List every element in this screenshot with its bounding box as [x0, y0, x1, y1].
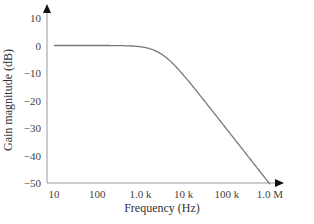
- gain-curve: [54, 46, 270, 185]
- x-tick-labels: 101001.0 k10 k100 k1.0 M: [49, 188, 284, 200]
- x-tick-label: 1.0 M: [257, 188, 284, 200]
- x-tick-label: 100: [89, 188, 106, 200]
- x-axis-arrow-icon: [275, 179, 284, 187]
- x-tick-label: 100 k: [214, 188, 239, 200]
- y-axis-label: Gain magnitude (dB): [1, 49, 15, 151]
- x-axis-label: Frequency (Hz): [124, 201, 200, 215]
- y-tick-label: −30: [24, 122, 42, 134]
- y-tick-labels: 100−10−20−30−40−50: [24, 12, 42, 189]
- x-tick-label: 10: [49, 188, 61, 200]
- x-tick-label: 10 k: [174, 188, 194, 200]
- y-tick-label: −40: [24, 150, 42, 162]
- y-tick-label: 0: [36, 40, 42, 52]
- y-tick-label: 10: [30, 12, 42, 24]
- y-tick-label: −20: [24, 95, 42, 107]
- y-tick-label: −10: [24, 67, 42, 79]
- x-tick-label: 1.0 k: [129, 188, 152, 200]
- y-axis-arrow-icon: [43, 4, 51, 13]
- y-tick-label: −50: [24, 177, 42, 189]
- chart-canvas: 100−10−20−30−40−50 101001.0 k10 k100 k1.…: [0, 0, 314, 224]
